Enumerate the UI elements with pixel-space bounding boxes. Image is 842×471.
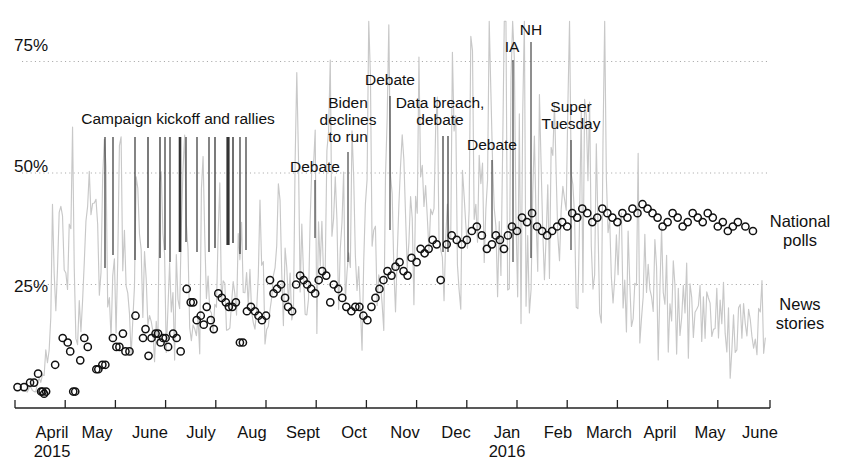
- x-tick-month: May: [694, 423, 725, 441]
- data-point: [513, 227, 520, 234]
- x-tick-month: Dec: [441, 423, 470, 441]
- x-tick-month: April: [643, 423, 676, 441]
- data-point: [584, 210, 591, 217]
- data-point: [624, 214, 631, 221]
- x-tick-month: Feb: [544, 423, 572, 441]
- annotation-ia: IA: [492, 38, 532, 55]
- data-point: [364, 317, 371, 324]
- annotation-campaign-kickoff: Campaign kickoff and rallies: [58, 110, 298, 127]
- data-point: [142, 326, 149, 333]
- data-point: [504, 232, 511, 239]
- x-tick-month: June: [742, 423, 778, 441]
- x-tick-year: 2015: [13, 442, 91, 461]
- y-tick-label-50: 50%: [0, 157, 48, 177]
- x-tick-month: June: [132, 423, 168, 441]
- data-point: [165, 343, 172, 350]
- data-point: [327, 299, 334, 306]
- annotation-debate-1: Debate: [278, 158, 352, 175]
- data-point: [119, 330, 126, 337]
- data-point: [262, 312, 269, 319]
- data-point: [67, 348, 74, 355]
- data-point: [488, 241, 495, 248]
- data-point: [523, 218, 530, 225]
- data-point: [81, 334, 88, 341]
- series-label-national-polls: National polls: [760, 212, 840, 250]
- data-point: [243, 308, 250, 315]
- data-point: [417, 245, 424, 252]
- data-point: [749, 227, 756, 234]
- data-point: [400, 268, 407, 275]
- data-point: [719, 218, 726, 225]
- data-point: [34, 370, 41, 377]
- data-point: [742, 223, 749, 230]
- data-point: [197, 312, 204, 319]
- data-point: [664, 218, 671, 225]
- x-tick-label-june-2016: June: [723, 423, 797, 442]
- data-point: [478, 232, 485, 239]
- y-tick-label-25: 25%: [0, 277, 48, 297]
- data-point: [109, 334, 116, 341]
- x-tick-month: Aug: [237, 423, 266, 441]
- data-point: [200, 321, 207, 328]
- annotation-data-breach-debate: Data breach, debate: [390, 94, 490, 128]
- data-point: [421, 250, 428, 257]
- x-tick-month: Jan: [494, 423, 521, 441]
- x-tick-month: May: [81, 423, 112, 441]
- x-tick-month: Nov: [390, 423, 419, 441]
- data-point: [193, 317, 200, 324]
- chart-container: 75% 50% 25% April 2015 May June July Aug…: [0, 0, 842, 471]
- data-point: [64, 339, 71, 346]
- data-point: [145, 352, 152, 359]
- x-tick-year: 2016: [472, 442, 542, 461]
- data-point: [139, 334, 146, 341]
- data-point: [443, 241, 450, 248]
- annotation-nh: NH: [508, 21, 554, 38]
- data-point: [84, 343, 91, 350]
- data-point: [177, 348, 184, 355]
- data-point: [674, 214, 681, 221]
- annotation-debate-2: Debate: [353, 71, 427, 88]
- data-point: [709, 214, 716, 221]
- annotation-super-tuesday: Super Tuesday: [533, 98, 609, 132]
- data-point: [348, 308, 355, 315]
- data-point: [699, 218, 706, 225]
- data-point: [734, 218, 741, 225]
- x-tick-month: July: [186, 423, 215, 441]
- y-tick-label-75: 75%: [0, 36, 48, 56]
- data-point: [564, 223, 571, 230]
- annotation-debate-3: Debate: [455, 136, 529, 153]
- annotation-biden-declines: Biden declines to run: [312, 94, 384, 145]
- data-point: [429, 236, 436, 243]
- data-point: [284, 303, 291, 310]
- data-point: [684, 218, 691, 225]
- x-tick-month: Oct: [341, 423, 367, 441]
- series-label-news-stories: News stories: [760, 295, 840, 333]
- data-point: [380, 276, 387, 283]
- data-point: [392, 263, 399, 270]
- data-point: [368, 303, 375, 310]
- data-point: [148, 334, 155, 341]
- data-point: [77, 357, 84, 364]
- data-point: [404, 272, 411, 279]
- data-point: [654, 214, 661, 221]
- x-tick-month: Sept: [286, 423, 320, 441]
- data-point: [52, 361, 59, 368]
